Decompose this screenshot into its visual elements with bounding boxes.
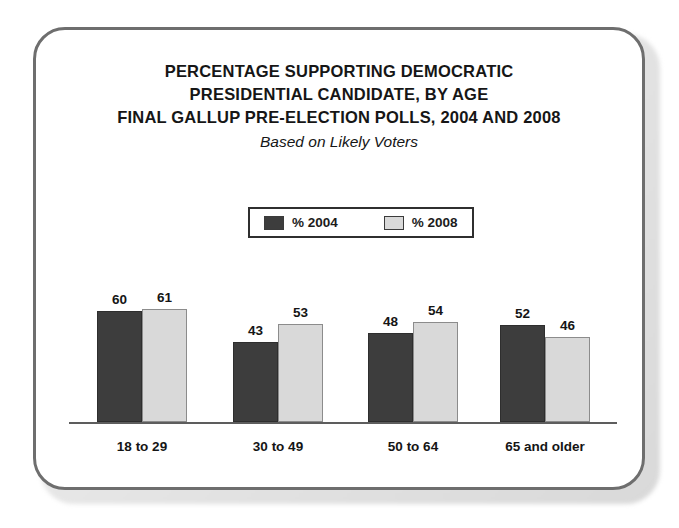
bar-2004-3: 52 xyxy=(500,325,545,422)
bar-value-2008-3: 46 xyxy=(546,318,589,333)
bar-2008-3: 46 xyxy=(545,337,590,422)
bar-pair-1: 43 53 xyxy=(233,292,323,422)
bar-2004-2: 48 xyxy=(368,333,413,422)
bar-value-2008-2: 54 xyxy=(414,303,457,318)
bar-pair-3: 52 46 xyxy=(500,292,590,422)
category-label-3: 65 and older xyxy=(486,439,604,454)
bar-2008-1: 53 xyxy=(278,324,323,422)
category-label-1: 30 to 49 xyxy=(219,439,337,454)
bar-value-2004-0: 60 xyxy=(98,292,141,307)
bar-value-2004-2: 48 xyxy=(369,314,412,329)
x-axis-baseline xyxy=(69,422,617,424)
category-label-0: 18 to 29 xyxy=(83,439,201,454)
plot-area: 60 61 18 to 29 43 53 30 to 49 xyxy=(36,30,648,493)
bar-2008-2: 54 xyxy=(413,322,458,422)
bar-value-2008-0: 61 xyxy=(143,290,186,305)
category-label-2: 50 to 64 xyxy=(354,439,472,454)
bar-2004-1: 43 xyxy=(233,342,278,422)
bar-value-2004-3: 52 xyxy=(501,306,544,321)
bar-pair-0: 60 61 xyxy=(97,292,187,422)
bar-2008-0: 61 xyxy=(142,309,187,422)
bar-value-2004-1: 43 xyxy=(234,323,277,338)
bar-pair-2: 48 54 xyxy=(368,292,458,422)
chart-card: PERCENTAGE SUPPORTING DEMOCRATIC PRESIDE… xyxy=(33,27,645,490)
bar-value-2008-1: 53 xyxy=(279,305,322,320)
bar-2004-0: 60 xyxy=(97,311,142,422)
